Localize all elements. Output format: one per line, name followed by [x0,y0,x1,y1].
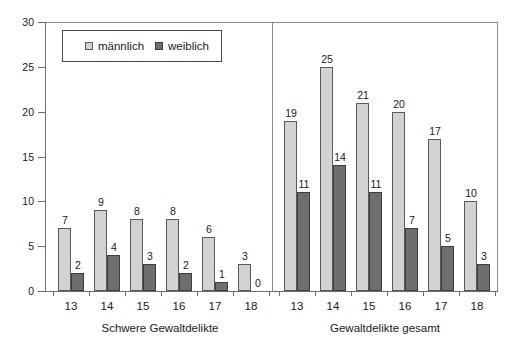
x-axis-tick-label: 13 [282,300,312,312]
y-axis-tick [38,291,45,292]
plot-area: 729483826130191125142111207175103 [46,22,498,291]
bar-value-label: 19 [280,108,302,118]
bar-weiblich [405,228,418,291]
x-axis-tick-label: 18 [462,300,492,312]
bar-weiblich [143,264,156,291]
x-axis-tick [279,291,280,296]
y-axis-tick-label-wrap: 5 [0,241,34,251]
bar-value-label: 3 [234,251,256,261]
bar-value-label: 8 [126,206,148,216]
x-axis-tick [233,291,234,296]
x-axis-tick-label: 13 [56,300,86,312]
x-axis-tick [89,291,90,296]
bar-maennlich [392,112,405,291]
x-axis-tick-label: 16 [164,300,194,312]
bar-maennlich [464,201,477,291]
bar-value-label: 7 [54,215,76,225]
bar-value-label: 2 [175,260,197,270]
y-axis-tick [38,112,45,113]
y-axis-tick [38,201,45,202]
y-axis-tick-label: 20 [10,107,34,117]
bar-weiblich [71,273,84,291]
x-axis-tick [269,291,270,296]
bar-maennlich [166,219,179,291]
panel-caption: Gewaltdelikte gesamt [295,322,475,335]
y-axis-tick-label-wrap: 20 [0,107,34,117]
bar-maennlich [356,103,369,291]
y-axis-tick [38,67,45,68]
bar-value-label: 7 [401,215,423,225]
y-axis-tick [38,22,45,23]
y-axis-tick-label: 5 [10,241,34,251]
bar-value-label: 5 [437,233,459,243]
panel-caption: Schwere Gewaltdelikte [70,322,250,335]
y-axis-tick [38,246,45,247]
y-axis-tick-label: 30 [10,17,34,27]
x-axis-tick [495,291,496,296]
y-axis-tick-label-wrap: 30 [0,17,34,27]
bar-value-label: 11 [365,179,387,189]
x-axis-tick [161,291,162,296]
y-axis-tick-label: 10 [10,196,34,206]
y-axis-tick-label-wrap: 25 [0,62,34,72]
y-axis-tick [38,157,45,158]
bar-value-label: 6 [198,224,220,234]
y-axis-tick-label-wrap: 10 [0,196,34,206]
legend-item-weiblich: weiblich [155,40,209,52]
x-axis-tick-label: 14 [318,300,348,312]
y-axis-tick-label: 0 [10,286,34,296]
x-axis-tick-label: 15 [354,300,384,312]
bar-value-label: 1 [211,269,233,279]
y-axis-tick-label-wrap: 15 [0,152,34,162]
bar-value-label: 25 [316,54,338,64]
x-axis-tick [315,291,316,296]
legend-swatch-weiblich-icon [155,42,163,50]
bar-weiblich [369,192,382,291]
bar-value-label: 17 [424,126,446,136]
x-axis-tick [459,291,460,296]
bar-value-label: 2 [67,260,89,270]
bar-maennlich [284,121,297,291]
bar-value-label: 11 [293,179,315,189]
x-axis-tick-label: 16 [390,300,420,312]
y-axis-tick-label: 25 [10,62,34,72]
y-axis-tick-label-wrap: 0 [0,286,34,296]
bar-value-label: 10 [460,188,482,198]
x-axis-tick [387,291,388,296]
x-axis-tick-label: 17 [426,300,456,312]
bar-weiblich [107,255,120,291]
legend-swatch-maennlich-icon [85,42,93,50]
bar-value-label: 3 [473,251,495,261]
x-axis-tick [197,291,198,296]
x-axis-tick-label: 14 [92,300,122,312]
bar-value-label: 4 [103,242,125,252]
legend-label-maennlich: männlich [98,40,144,52]
x-axis-tick-label: 15 [128,300,158,312]
x-axis-tick-label: 18 [236,300,266,312]
bar-weiblich [477,264,490,291]
legend: männlich weiblich [62,30,222,62]
bar-value-label: 0 [247,278,269,288]
x-axis-tick-label: 17 [200,300,230,312]
bar-maennlich [202,237,215,291]
bar-value-label: 9 [90,197,112,207]
bar-maennlich [428,139,441,291]
bar-weiblich [441,246,454,291]
x-axis-tick [423,291,424,296]
bar-maennlich [320,67,333,291]
bar-value-label: 21 [352,90,374,100]
x-axis-tick [53,291,54,296]
bar-value-label: 20 [388,99,410,109]
chart-container: 051015202530 729483826130191125142111207… [0,0,526,345]
bar-weiblich [297,192,310,291]
bar-value-label: 14 [329,152,351,162]
x-axis-tick [125,291,126,296]
bar-weiblich [215,282,228,291]
y-axis-tick-label: 15 [10,152,34,162]
bar-weiblich [179,273,192,291]
bar-value-label: 3 [139,251,161,261]
x-axis-tick [351,291,352,296]
legend-label-weiblich: weiblich [168,40,209,52]
bar-value-label: 8 [162,206,184,216]
bar-weiblich [333,165,346,291]
